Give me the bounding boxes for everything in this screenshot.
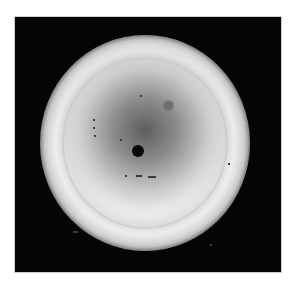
speck — [93, 119, 95, 121]
circular-disc — [40, 35, 250, 251]
central-dark-spot — [132, 145, 144, 157]
photo-frame — [14, 16, 282, 273]
secondary-grey-spot — [164, 101, 173, 110]
inner-ring — [62, 57, 228, 229]
speck — [140, 95, 142, 97]
speck — [93, 127, 95, 129]
speck — [125, 175, 127, 177]
speck — [73, 231, 78, 233]
speck — [136, 175, 142, 177]
speck — [228, 163, 230, 165]
speck — [210, 244, 212, 246]
speck — [94, 135, 96, 137]
speck — [120, 139, 122, 141]
speck — [148, 176, 156, 178]
